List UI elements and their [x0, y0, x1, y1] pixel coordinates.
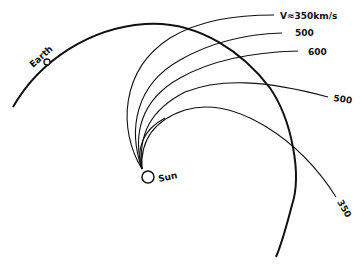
- streamline-350-bottom: [142, 107, 336, 197]
- streamline-350-top: [127, 15, 274, 169]
- speed-label-500-a: 500: [295, 28, 314, 38]
- earth-orbit-arc: [13, 24, 296, 257]
- earth-label: Earth: [28, 44, 55, 70]
- streamline-600: [139, 51, 298, 169]
- streamlines: [127, 15, 336, 197]
- speed-label-600: 600: [308, 47, 327, 57]
- streamline-500-b: [141, 83, 328, 169]
- speed-label-500-b: 500: [333, 93, 353, 106]
- sun-label: Sun: [157, 170, 178, 184]
- speed-label-350-bottom: 350: [335, 198, 353, 219]
- solar-wind-diagram: Sun Earth V≈350km/s 500 600 500 350: [0, 0, 363, 274]
- streamline-inner: [140, 118, 165, 169]
- sun-icon: [142, 171, 154, 183]
- speed-label-350-top: V≈350km/s: [280, 11, 337, 21]
